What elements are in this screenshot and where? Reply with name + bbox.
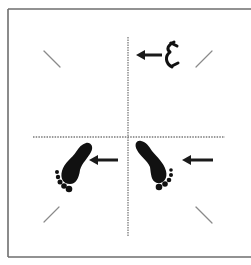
left-foot-icon bbox=[55, 143, 92, 192]
right-foot-icon bbox=[136, 141, 173, 190]
frame-border bbox=[8, 9, 251, 257]
arrow-left-icon bbox=[89, 155, 118, 165]
arrow-left-icon bbox=[136, 50, 162, 60]
tick-top-right bbox=[196, 51, 212, 67]
arrow-left-icon bbox=[182, 155, 213, 165]
tick-bottom-left bbox=[44, 207, 59, 222]
head-icon bbox=[166, 42, 178, 67]
tick-top-left bbox=[44, 51, 60, 67]
diagram-canvas bbox=[0, 0, 251, 265]
tick-bottom-right bbox=[196, 207, 212, 223]
